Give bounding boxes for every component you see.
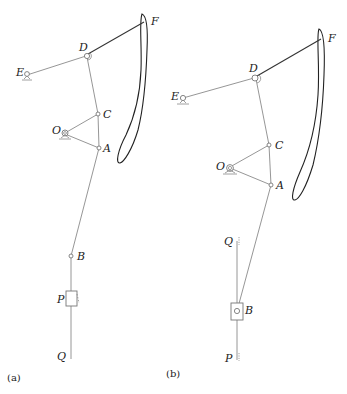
label-P-a: P (56, 293, 65, 306)
label-C-a: C (103, 108, 112, 121)
link-OC (65, 114, 98, 133)
label-O-a: O (52, 124, 61, 137)
label-O-b: O (216, 160, 225, 173)
label-A-b: A (275, 179, 284, 192)
label-D-a: D (78, 41, 88, 54)
caption-b: (b) (166, 368, 180, 379)
joint-C-a (96, 112, 100, 116)
joint-D-a (84, 53, 89, 58)
label-D-b: D (248, 62, 258, 75)
mechanism-diagram: D E F C O A B P Q (a) (0, 0, 347, 394)
panel-b: D E F C O A B P Q (b) (166, 29, 336, 379)
link-DC (87, 57, 98, 114)
label-F-a: F (150, 15, 159, 28)
joint-C-b (267, 143, 271, 147)
joint-A-a (97, 146, 101, 150)
label-E-b: E (170, 90, 179, 103)
link-OA (65, 134, 99, 148)
link-AB (71, 148, 99, 256)
link-CA-b (269, 145, 271, 185)
joint-B-a (69, 254, 73, 258)
label-P-b: P (224, 352, 233, 365)
link-OA-b (230, 168, 271, 185)
panel-a: D E F C O A B P Q (a) (7, 14, 159, 383)
joint-A-b (269, 183, 273, 187)
joint-D-b (252, 75, 258, 81)
label-F-b: F (327, 32, 336, 45)
label-B-a: B (76, 250, 85, 263)
link-DF-b (257, 39, 321, 76)
joint-B-b (234, 308, 239, 313)
label-C-b: C (275, 139, 284, 152)
link-ED (27, 56, 86, 75)
link-AB-b (237, 185, 271, 311)
link-ED-b (183, 78, 254, 98)
link-OC-b (230, 145, 269, 167)
slider-P-a (66, 291, 77, 306)
link-CA (98, 114, 99, 148)
link-DF (88, 22, 144, 54)
coupler-curve-a (118, 14, 148, 163)
coupler-curve-b (293, 29, 325, 200)
label-B-b: B (244, 304, 253, 317)
link-DC-b (256, 79, 269, 145)
label-E-a: E (15, 66, 24, 79)
label-A-a: A (102, 142, 111, 155)
label-Q-b: Q (224, 235, 233, 248)
label-Q-a: Q (57, 350, 66, 363)
caption-a: (a) (7, 372, 21, 383)
